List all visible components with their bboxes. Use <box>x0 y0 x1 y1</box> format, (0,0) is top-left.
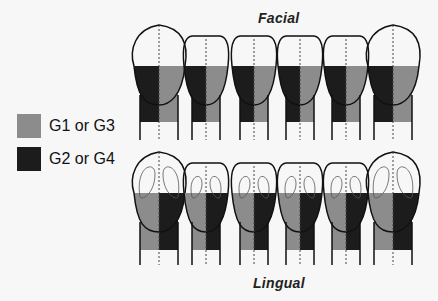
lingual-row-tooth <box>361 152 425 265</box>
facial-row <box>127 25 425 140</box>
lingual-row-tooth <box>319 162 373 265</box>
facial-row-tooth <box>319 35 373 140</box>
facial-row-tooth <box>127 25 191 140</box>
lingual-row-tooth <box>127 152 191 265</box>
lingual-row-tooth <box>273 162 327 265</box>
teeth-diagram <box>0 0 438 301</box>
facial-row-tooth <box>227 35 281 140</box>
facial-row-tooth <box>179 35 233 140</box>
facial-row-tooth <box>273 35 327 140</box>
lingual-row-tooth <box>227 162 281 265</box>
facial-row-tooth <box>361 25 425 140</box>
lingual-row <box>127 152 425 265</box>
lingual-row-tooth <box>179 162 233 265</box>
